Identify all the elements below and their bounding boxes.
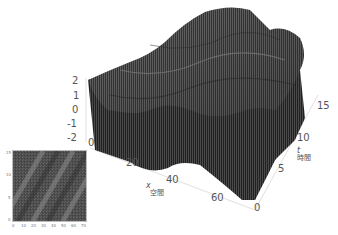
x-axis-label: x 空間: [146, 182, 164, 198]
x-axis-text: 空間: [150, 189, 164, 197]
t-tick: 10: [297, 133, 310, 143]
inset-x-tick: 60: [71, 224, 76, 228]
inset-y-tick: 0: [8, 218, 11, 222]
x-tick: 0: [88, 138, 94, 148]
inset-y-tick: 5: [8, 196, 11, 200]
inset-heatmap: [12, 150, 87, 222]
t-axis-text: 時間: [297, 154, 311, 162]
z-tick: -2: [67, 133, 77, 143]
x-tick: 60: [211, 193, 224, 203]
z-tick: 1: [73, 91, 79, 101]
t-tick: 5: [278, 164, 284, 174]
inset-x-tick: 40: [51, 224, 56, 228]
x-tick: 20: [126, 158, 139, 168]
inset-x-tick: 50: [61, 224, 66, 228]
inset-heatmap-image: [13, 151, 86, 221]
figure: 2 1 0 -1 -2 0 20 40 60 0 5 10 15 x 空間 t …: [0, 0, 338, 235]
inset-y-tick: 10: [6, 173, 11, 177]
inset-x-tick: 70: [81, 224, 86, 228]
t-tick: 0: [254, 203, 260, 213]
inset-x-tick: 0: [12, 224, 15, 228]
z-tick: -1: [67, 119, 77, 129]
inset-x-tick: 20: [31, 224, 36, 228]
inset-x-tick: 30: [41, 224, 46, 228]
z-tick: 2: [72, 76, 78, 86]
inset-x-tick: 10: [21, 224, 26, 228]
t-axis-label: t 時間: [297, 147, 311, 163]
inset-y-tick: 15: [6, 151, 11, 155]
t-tick: 15: [317, 101, 330, 111]
x-tick: 40: [166, 175, 179, 185]
z-tick: 0: [72, 105, 78, 115]
